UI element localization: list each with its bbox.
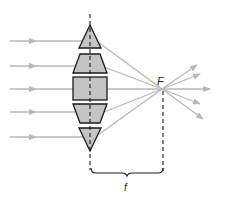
refracted-rays [98,42,210,135]
focal-length-bracket [91,168,163,176]
focal-length-label: f [124,182,128,193]
converging-lens-diagram: F f [0,0,229,202]
outgoing-ray-2 [162,89,200,104]
focal-point-label: F [157,75,165,87]
refracted-ray-2 [104,67,162,89]
outgoing-ray-1 [162,89,203,119]
refracted-ray-4 [104,89,162,112]
